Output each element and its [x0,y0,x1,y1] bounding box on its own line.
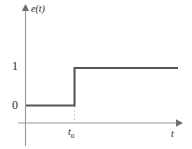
figure-container: e(t) t 1 0 t0 [0,0,192,149]
x-tick-label-t0: t0 [68,127,74,140]
x-axis-label: t [171,129,174,139]
step-function-curve [26,68,178,106]
plot-canvas [0,0,192,149]
y-tick-label-one: 1 [4,60,18,72]
y-axis-arrowhead [22,4,29,11]
x-axis-arrowhead [176,119,183,127]
x-tick-label-t0-subscript: 0 [71,132,75,140]
y-axis-label: e(t) [31,4,45,14]
y-tick-label-zero: 0 [4,99,18,111]
